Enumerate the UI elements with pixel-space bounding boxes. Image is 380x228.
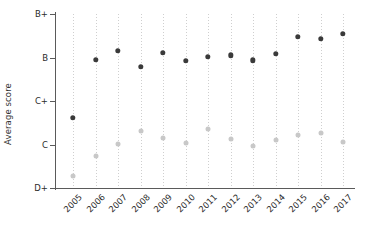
gridline [208,14,209,188]
data-point [295,34,300,39]
y-axis-title: Average score [0,0,16,228]
gridline [73,14,74,188]
y-axis-line [55,12,56,190]
data-point [160,50,165,55]
data-point [273,51,278,56]
data-point [93,154,98,159]
gridline [343,14,344,188]
data-point [318,36,323,41]
data-point [161,135,166,140]
y-axis-tick-label: C [0,140,48,150]
scatter-chart: Average score B+BC+CD+ 20052006200720082… [0,0,380,228]
y-axis-tick-label: B [0,53,48,63]
data-point [115,48,120,53]
gridline [163,14,164,188]
data-point [250,57,255,62]
data-point [340,31,345,36]
data-point [296,132,301,137]
gridline [141,14,142,188]
gridline [231,14,232,188]
data-point [70,115,75,120]
data-point [228,137,233,142]
data-point [116,141,121,146]
data-point [138,64,143,69]
y-axis-tick [50,145,55,146]
gridline [186,14,187,188]
data-point [183,58,188,63]
gridline [118,14,119,188]
y-axis-tick [50,101,55,102]
data-point [205,54,210,59]
gridline [276,14,277,188]
gridline [96,14,97,188]
data-point [251,144,256,149]
x-axis-line [55,188,355,189]
gridline [253,14,254,188]
data-point [138,129,143,134]
data-point [341,140,346,145]
y-axis-tick-label: D+ [0,183,48,193]
data-point [273,138,278,143]
y-axis-tick-label: C+ [0,96,48,106]
data-point [318,131,323,136]
data-point [228,53,233,58]
y-axis-tick [50,14,55,15]
data-point [183,141,188,146]
y-axis-tick [50,188,55,189]
data-point [71,173,76,178]
y-axis-tick-label: B+ [0,9,48,19]
data-point [206,126,211,131]
y-axis-tick [50,58,55,59]
data-point [93,57,98,62]
gridline [298,14,299,188]
